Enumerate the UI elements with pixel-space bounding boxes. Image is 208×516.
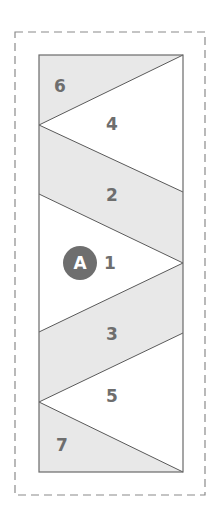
badge-label: A: [73, 253, 87, 273]
label-piece-6: 6: [54, 76, 66, 96]
label-piece-1: 1: [104, 253, 116, 273]
piecing-diagram: 6 4 2 1 3 5 7 A: [0, 0, 208, 516]
label-piece-4: 4: [106, 114, 118, 134]
label-piece-3: 3: [106, 324, 118, 344]
label-piece-2: 2: [106, 185, 118, 205]
label-piece-5: 5: [106, 386, 118, 406]
label-piece-7: 7: [56, 435, 68, 455]
section-badge: A: [63, 246, 97, 280]
